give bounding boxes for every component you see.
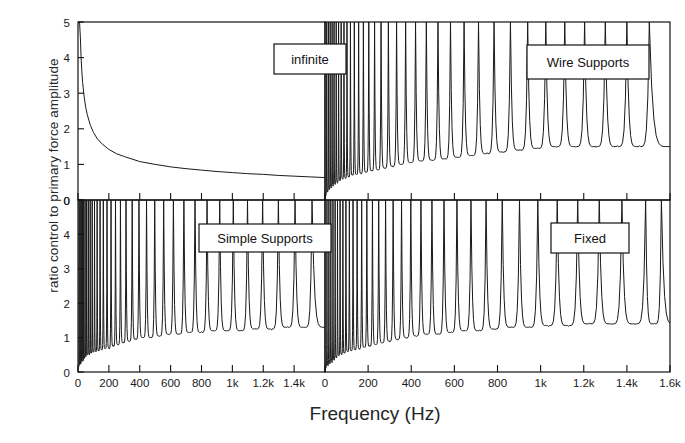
- y-tick-label: 3: [64, 88, 70, 100]
- x-tick-label: 400: [130, 377, 149, 389]
- x-tick-label: 0: [75, 377, 81, 389]
- panel-label-bottom_right: Fixed: [551, 223, 629, 253]
- x-tick-label: 0: [322, 377, 328, 389]
- y-axis-title: ratio control to primary force amplitude: [46, 11, 61, 341]
- x-tick-label: 1k: [226, 377, 238, 389]
- y-tick-label: 0: [64, 195, 70, 207]
- x-axis-title: Frequency (Hz): [80, 403, 670, 425]
- x-tick-label: 800: [488, 377, 507, 389]
- y-tick-label: 4: [64, 229, 71, 241]
- panel-label-top_right: Wire Supports: [527, 45, 649, 79]
- panel-label-top_left: infinite: [274, 44, 346, 74]
- x-tick-label: 1.6k: [659, 377, 681, 389]
- y-tick-label: 3: [64, 263, 70, 275]
- y-tick-label: 2: [64, 298, 70, 310]
- y-tick-label: 1: [64, 332, 70, 344]
- panel-label-text: Simple Supports: [217, 231, 313, 246]
- panel-label-text: Wire Supports: [547, 55, 630, 70]
- y-tick-label: 1: [64, 159, 70, 171]
- x-tick-label: 200: [359, 377, 378, 389]
- panel-label-text: Fixed: [574, 231, 606, 246]
- panel-label-text: infinite: [291, 52, 329, 67]
- x-tick-label: 1.4k: [283, 377, 305, 389]
- plot-svg: 01234502004006008001k1.2k1.4k01234002004…: [0, 0, 685, 443]
- y-tick-label: 5: [64, 17, 70, 29]
- x-tick-label: 200: [99, 377, 118, 389]
- x-tick-label: 400: [402, 377, 421, 389]
- x-tick-label: 1.4k: [616, 377, 638, 389]
- panel-label-bottom_left: Simple Supports: [199, 224, 331, 252]
- x-tick-label: 600: [445, 377, 464, 389]
- x-tick-label: 1.2k: [252, 377, 274, 389]
- y-tick-label: 2: [64, 123, 70, 135]
- figure-container: ratio control to primary force amplitude…: [0, 0, 685, 443]
- x-tick-label: 800: [192, 377, 211, 389]
- x-tick-label: 1k: [535, 377, 547, 389]
- x-tick-label: 1.2k: [573, 377, 595, 389]
- x-tick-label: 600: [161, 377, 180, 389]
- y-tick-label: 4: [64, 52, 71, 64]
- y-tick-label: 0: [64, 367, 70, 379]
